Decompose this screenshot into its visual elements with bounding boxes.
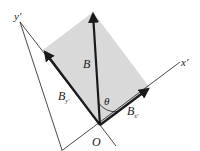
y-prime-axis-label: y′ [13,10,22,22]
component-x-label: Bx′ [127,104,139,119]
component-y-label: By′ [58,89,70,104]
x-prime-axis-label: x′ [180,56,189,68]
angle-theta-label: θ [104,95,110,107]
component-y-subscript: y′ [64,98,70,104]
y-prime-axis-lower [100,125,116,146]
vector-diagram: y′ x′ B By′ Bx′ θ O [0,0,200,151]
vector-b-label: B [83,57,91,71]
origin-label: O [92,135,101,149]
component-x-subscript: x′ [133,113,139,119]
